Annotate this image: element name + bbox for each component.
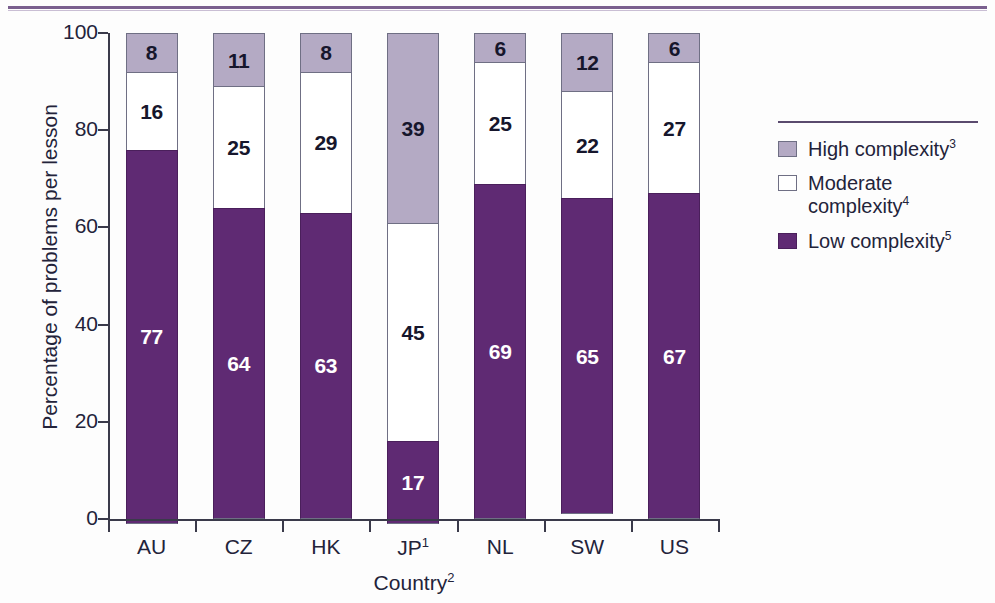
bar-segment-value: 45 [402,322,425,343]
bar-segment-value: 63 [314,355,337,376]
x-axis-tick-label-sw: SW [570,535,604,559]
legend-swatch-icon [778,233,797,249]
bar-segment-value: 25 [227,137,250,158]
x-axis-tick-label-cz: CZ [225,535,253,559]
bar-segment-value: 17 [402,472,425,493]
bar-segment-value: 67 [663,346,686,367]
bar-segment-value: 77 [140,326,163,347]
bar-nl[interactable]: 62569 [474,33,526,519]
y-axis-tick [98,518,108,520]
legend-item-label: Moderate complexity4 [808,172,983,218]
y-axis-tick [98,324,108,326]
bar-segment-high[interactable]: 8 [300,33,352,72]
x-axis-tick-label-jp: JP1 [397,535,429,560]
y-axis-title: Percentage of problems per lesson [38,57,62,477]
bar-segment-moderate[interactable]: 25 [474,62,526,184]
bar-segment-value: 65 [576,346,599,367]
bar-segment-value: 11 [228,50,250,71]
bar-segment-value: 27 [663,118,686,139]
bar-us[interactable]: 62767 [648,33,700,519]
x-axis-tick-label-text: NL [487,535,514,558]
bar-segment-moderate[interactable]: 25 [213,86,265,208]
y-axis-tick-label: 0 [8,506,98,530]
x-axis-tick-label-text: US [660,535,689,558]
bar-segment-low[interactable]: 17 [387,441,439,524]
legend-item-label-text: Moderate complexity [808,172,902,217]
legend-item-label: Low complexity5 [808,230,951,253]
bar-segment-value: 69 [489,341,512,362]
legend-item-label-text: Low complexity [808,230,945,252]
bar-sw[interactable]: 122265 [561,33,613,519]
bar-segment-moderate[interactable]: 29 [300,72,352,213]
x-axis-tick-label-hk: HK [311,535,340,559]
legend-swatch-icon [778,141,797,157]
bar-segment-high[interactable]: 6 [474,33,526,62]
legend-item-high[interactable]: High complexity3 [778,138,983,161]
bar-segment-high[interactable]: 12 [561,33,613,91]
legend-item-label-text: High complexity [808,138,949,160]
bar-segment-low[interactable]: 63 [300,213,352,519]
x-axis-tick [282,521,284,532]
bar-segment-value: 6 [494,38,505,59]
y-axis-tick [98,421,108,423]
legend-item-moderate[interactable]: Moderate complexity4 [778,172,983,218]
stacked-bar-chart: 020406080100 Percentage of problems per … [0,0,740,603]
y-axis-tick [98,226,108,228]
bar-segment-value: 12 [576,52,599,73]
bar-segment-low[interactable]: 69 [474,184,526,519]
bar-au[interactable]: 81677 [126,33,178,519]
bar-cz[interactable]: 112564 [213,33,265,519]
bar-jp[interactable]: 394517 [387,33,439,519]
x-axis-tick [544,521,546,532]
x-axis-title-footnote: 2 [447,570,454,585]
x-axis-title-text: Country [374,571,448,594]
legend-item-footnote: 4 [902,195,909,209]
bar-segment-moderate[interactable]: 22 [561,91,613,198]
bar-segment-high[interactable]: 6 [648,33,700,62]
bar-segment-value: 25 [489,113,512,134]
x-axis-tick [457,521,459,532]
x-axis-tick-label-us: US [660,535,689,559]
y-axis-tick [98,129,108,131]
legend-swatch-icon [778,175,797,191]
y-axis-tick-label: 100 [8,20,98,44]
bar-segment-low[interactable]: 77 [126,150,178,524]
bar-segment-moderate[interactable]: 45 [387,223,439,442]
x-axis-tick-label-text: AU [137,535,166,558]
bar-segment-moderate[interactable]: 27 [648,62,700,193]
legend-top-rule [778,121,978,123]
bar-segment-value: 29 [314,132,337,153]
bar-segment-low[interactable]: 67 [648,193,700,519]
bar-segment-moderate[interactable]: 16 [126,72,178,150]
legend-item-label: High complexity3 [808,138,956,161]
bar-segment-value: 64 [227,353,250,374]
x-axis-tick-label-text: HK [311,535,340,558]
bar-segment-value: 8 [146,42,157,63]
x-axis-tick [631,521,633,532]
legend-item-footnote: 3 [949,137,956,151]
bar-segment-high[interactable]: 11 [213,33,265,86]
y-axis-tick [98,32,108,34]
bar-segment-value: 39 [402,118,425,139]
bar-hk[interactable]: 82963 [300,33,352,519]
bar-segment-high[interactable]: 8 [126,33,178,72]
x-axis-tick [369,521,371,532]
x-axis-tick-label-au: AU [137,535,166,559]
bar-segment-high[interactable]: 39 [387,33,439,223]
legend-item-footnote: 5 [945,229,952,243]
legend-item-low[interactable]: Low complexity5 [778,230,983,253]
x-axis-tick-label-text: CZ [225,535,253,558]
x-axis-tick-label-text: JP [397,536,422,559]
bar-segment-value: 6 [669,38,680,59]
bar-segment-value: 22 [576,135,599,156]
plot-area: 81677112564829633945176256912226562767 [108,33,718,519]
legend-item-list: High complexity3Moderate complexity4Low … [778,138,983,253]
x-axis-line [108,519,720,521]
bar-segment-low[interactable]: 64 [213,208,265,519]
x-axis-title: Country2 [108,570,720,595]
x-axis-tick-label-text: SW [570,535,604,558]
x-axis-tick [195,521,197,532]
chart-legend: High complexity3Moderate complexity4Low … [778,121,983,264]
bar-segment-low[interactable]: 65 [561,198,613,514]
x-axis-tick-label-nl: NL [487,535,514,559]
